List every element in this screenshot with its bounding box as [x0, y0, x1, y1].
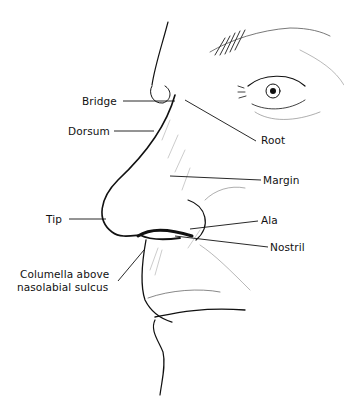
profile-forehead — [152, 22, 168, 85]
margin-leader — [170, 176, 261, 180]
nose-hatch — [150, 120, 200, 275]
upper-lip — [142, 240, 172, 322]
eyebrow-hatch — [215, 30, 245, 55]
label-columella-line1: Columella above — [20, 268, 109, 281]
under-eye — [255, 112, 320, 120]
label-root: Root — [261, 134, 285, 147]
cheek-contour — [205, 187, 245, 200]
lower-lip — [153, 320, 164, 395]
columella-leader — [118, 250, 144, 281]
label-bridge: Bridge — [82, 95, 117, 108]
nose-illustration — [0, 0, 344, 412]
label-tip: Tip — [46, 213, 62, 226]
lower-eyelid — [252, 100, 305, 109]
pupil — [270, 88, 276, 94]
bridge-bump — [150, 86, 170, 103]
label-dorsum: Dorsum — [68, 125, 110, 138]
label-columella-line2: nasolabial sulcus — [17, 281, 108, 294]
nose-profile — [102, 95, 175, 236]
label-ala: Ala — [261, 214, 278, 227]
columella — [140, 235, 180, 239]
nasolabial-fold — [200, 245, 250, 290]
mouth-line — [155, 309, 245, 317]
label-nostril: Nostril — [270, 241, 305, 254]
temple-line — [300, 50, 344, 85]
eyelashes — [238, 86, 246, 98]
nostril-shape — [138, 230, 192, 236]
nostril-leader — [175, 236, 268, 247]
upper-lip-line — [148, 290, 220, 298]
root-leader — [185, 100, 256, 141]
ala-leader — [190, 221, 258, 229]
label-margin: Margin — [263, 174, 299, 187]
